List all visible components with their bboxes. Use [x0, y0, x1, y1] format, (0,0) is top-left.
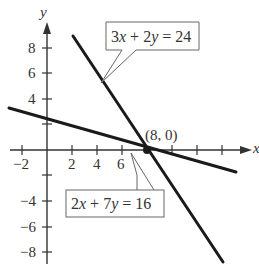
callout-eq1: 3x + 2y = 24: [101, 22, 199, 83]
eq2-rhs: = 16: [118, 195, 151, 212]
y-tick-label: −8: [20, 244, 36, 260]
callout-eq2: 2x + 7y = 16: [66, 153, 164, 217]
eq2-coef: 2: [71, 195, 79, 212]
eq1-var-x: x: [118, 28, 126, 45]
graph-canvas: x y −2 2 4 6 8 6 4 −4 −6 −8 (8, 0) 3x + …: [0, 0, 259, 274]
svg-text:2x + 7y = 16: 2x + 7y = 16: [71, 195, 151, 213]
svg-text:3x + 2y = 24: 3x + 2y = 24: [111, 28, 191, 46]
y-tick-label: 8: [28, 40, 36, 56]
y-tick-label: −4: [20, 193, 36, 209]
intersection-point: [143, 146, 151, 154]
eq2-plus: + 7: [86, 195, 111, 212]
x-tick-label: 6: [117, 156, 125, 172]
x-axis-arrow-icon: [240, 146, 252, 154]
y-axis: [42, 22, 52, 264]
x-tick-label: −2: [13, 156, 29, 172]
y-tick-label: 6: [28, 65, 36, 81]
y-tick-label: −6: [20, 219, 36, 235]
x-axis-label: x: [252, 140, 259, 156]
y-axis-label: y: [38, 4, 47, 20]
y-tick-label: 4: [28, 91, 36, 107]
x-tick-label: 4: [93, 156, 101, 172]
eq2-var-x: x: [78, 195, 86, 212]
y-axis-arrow-icon: [43, 22, 51, 34]
x-tick-label: 2: [68, 156, 76, 172]
eq1-rhs: = 24: [158, 28, 191, 45]
intersection-label: (8, 0): [145, 127, 178, 144]
eq1-coef: 3: [111, 28, 119, 45]
eq1-plus: + 2: [126, 28, 151, 45]
